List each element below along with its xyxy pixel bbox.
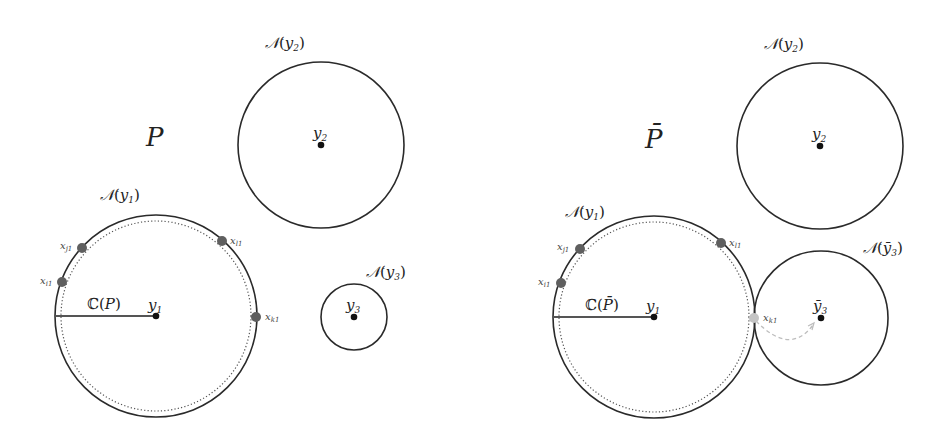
- point-x-k1: [251, 312, 261, 322]
- label-coverage-p: ℂ(P): [87, 295, 121, 313]
- left-panel: P y2 𝒩(y2) y1 ℂ(P) 𝒩(y1) xj1 xi1 xl1 xk1…: [40, 34, 406, 417]
- label-y2: y2: [312, 124, 327, 143]
- point-x-j1: [77, 243, 87, 253]
- label-x-i1: xi1: [40, 275, 52, 288]
- point-x-j1-right: [575, 244, 585, 254]
- label-x-k1: xk1: [265, 311, 279, 324]
- point-x-i1-right: [556, 278, 566, 288]
- label-y1: y1: [147, 296, 162, 315]
- label-y3: y3: [345, 296, 360, 315]
- relocation-arrow: [756, 321, 813, 340]
- label-x-k1-right: xk1: [763, 312, 777, 325]
- point-x-l1-right: [716, 238, 726, 248]
- point-x-i1: [57, 277, 67, 287]
- panel-title-p-bar: P̄: [644, 123, 663, 154]
- right-panel: P̄ y2 𝒩(y2) y1 ℂ(P̄) 𝒩(y1) xj1 xi1 xl1 ȳ…: [538, 35, 903, 418]
- label-n-y3: 𝒩(y3): [366, 263, 406, 282]
- label-x-i1-right: xi1: [538, 276, 550, 289]
- label-n-y2: 𝒩(y2): [265, 34, 305, 53]
- label-y3-bar: ȳ3: [812, 297, 827, 316]
- label-coverage-p-bar: ℂ(P̄): [585, 296, 619, 314]
- point-x-l1: [217, 236, 227, 246]
- label-n-y3-bar: 𝒩(ȳ3): [863, 239, 903, 258]
- label-n-y1: 𝒩(y1): [100, 186, 140, 205]
- label-n-y1-right: 𝒩(y1): [565, 203, 605, 222]
- figure-canvas: P y2 𝒩(y2) y1 ℂ(P) 𝒩(y1) xj1 xi1 xl1 xk1…: [0, 0, 950, 438]
- label-x-l1-right: xl1: [729, 237, 741, 250]
- label-x-j1-right: xj1: [557, 241, 569, 254]
- label-y1-right: y1: [645, 297, 660, 316]
- label-x-j1: xj1: [60, 240, 72, 253]
- panel-title-p: P: [145, 122, 164, 152]
- label-n-y2-right: 𝒩(y2): [764, 35, 804, 54]
- label-y2-right: y2: [811, 125, 826, 144]
- point-x-k1-right: [749, 313, 759, 323]
- label-x-l1: xl1: [230, 235, 242, 248]
- arrowhead-icon: [808, 323, 814, 330]
